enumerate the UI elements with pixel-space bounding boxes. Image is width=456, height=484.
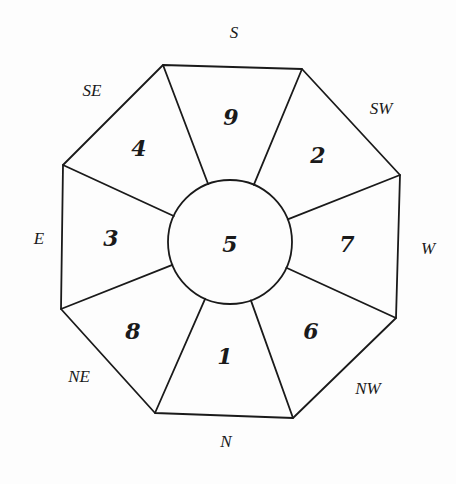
direction-label-e: E bbox=[33, 229, 45, 248]
segment-number-e: 3 bbox=[103, 225, 118, 251]
direction-label-sw: SW bbox=[370, 99, 395, 118]
direction-label-n: N bbox=[219, 432, 233, 451]
segment-number-ne: 8 bbox=[124, 318, 140, 344]
spoke-line-7 bbox=[63, 165, 174, 216]
spoke-line-5 bbox=[155, 299, 205, 413]
direction-label-s: S bbox=[230, 23, 239, 42]
segment-numbers-group: 592761834 bbox=[103, 104, 355, 369]
segment-number-sw: 2 bbox=[309, 142, 325, 168]
spoke-line-6 bbox=[61, 265, 172, 309]
direction-label-se: SE bbox=[83, 81, 103, 100]
spoke-line-0 bbox=[163, 65, 208, 184]
direction-label-w: W bbox=[421, 239, 437, 258]
segment-number-se: 4 bbox=[131, 135, 146, 161]
direction-label-ne: NE bbox=[67, 367, 90, 386]
spoke-line-2 bbox=[288, 175, 400, 219]
spoke-line-4 bbox=[251, 300, 293, 418]
octagon-diagram: 592761834 SSWWNWNNEESE bbox=[0, 0, 456, 484]
segment-number-n: 1 bbox=[217, 343, 232, 369]
spoke-line-1 bbox=[254, 69, 302, 185]
segment-number-nw: 6 bbox=[303, 318, 318, 344]
center-number: 5 bbox=[222, 231, 237, 257]
direction-label-nw: NW bbox=[354, 379, 382, 398]
segment-number-w: 7 bbox=[339, 231, 355, 257]
segment-number-s: 9 bbox=[223, 104, 238, 130]
spoke-line-3 bbox=[286, 268, 396, 318]
